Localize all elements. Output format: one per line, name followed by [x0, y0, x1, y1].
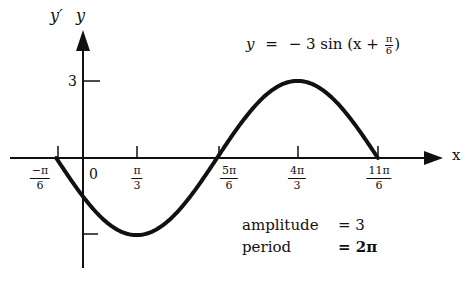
frac-numerator: −π [30, 165, 50, 179]
period-value: = 2π [338, 240, 377, 255]
frac-denominator: 6 [225, 179, 232, 192]
equation: y = − 3 sin (x + π 6 ) [246, 34, 400, 56]
frac-numerator: 4π [288, 165, 306, 179]
x-tick-label-11pi-6: 11π 6 [366, 165, 391, 191]
amplitude-value: = 3 [338, 218, 365, 233]
frac-denominator: 6 [386, 46, 392, 56]
amplitude-label: amplitude [242, 218, 319, 233]
frac-numerator: π [131, 165, 142, 179]
frac-denominator: 6 [36, 179, 43, 192]
frac-denominator: 3 [293, 179, 300, 192]
y-prime-axis-label: y′ [50, 8, 63, 24]
x-tick-label-neg-pi-6: −π 6 [30, 165, 50, 191]
frac-denominator: 3 [133, 179, 140, 192]
equation-fraction: π 6 [385, 34, 394, 56]
x-axis-label: x [452, 148, 460, 163]
x-tick-label-pi-3: π 3 [131, 165, 142, 191]
x-tick-label-5pi-6: 5π 6 [220, 165, 238, 191]
equation-lhs: y [246, 35, 254, 53]
origin-label: 0 [89, 167, 98, 181]
frac-numerator: 11π [366, 165, 391, 179]
frac-numerator: 5π [220, 165, 238, 179]
y-axis-label: y [76, 8, 85, 24]
x-tick-label-4pi-3: 4π 3 [288, 165, 306, 191]
y-axis-arrow-icon [76, 30, 90, 51]
frac-denominator: 6 [375, 179, 382, 192]
period-label: period [242, 240, 291, 255]
y-tick-label-3: 3 [68, 74, 77, 88]
x-axis-arrow-icon [424, 151, 443, 165]
equation-equals: = [265, 35, 278, 53]
equation-close-paren: ) [394, 35, 400, 53]
equation-rhs: − 3 sin (x + [289, 35, 379, 53]
